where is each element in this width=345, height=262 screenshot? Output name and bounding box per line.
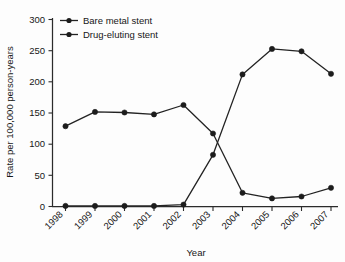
data-point [151, 112, 156, 117]
x-tick-label: 2000 [101, 209, 124, 232]
y-tick-label: 200 [29, 76, 45, 87]
legend-label-bare-metal-stent: Bare metal stent [83, 15, 153, 26]
x-tick-label: 2002 [160, 209, 183, 232]
data-point [63, 124, 68, 129]
legend-item-drug-eluting-stent: Drug-eluting stent [60, 29, 158, 40]
series-line-bare-metal-stent [66, 105, 332, 198]
data-point [151, 203, 156, 208]
y-axis-tick-labels: 0 50 100 150 200 250 300 [29, 14, 45, 212]
y-tick-label: 150 [29, 107, 45, 118]
data-point [328, 185, 333, 190]
y-tick-label: 0 [40, 201, 45, 212]
x-tick-label: 1998 [42, 209, 65, 232]
legend-marker-icon [66, 18, 71, 23]
x-tick-label: 2007 [308, 209, 331, 232]
data-point [299, 49, 304, 54]
y-axis-title: Rate per 100,000 person-years [4, 46, 15, 178]
data-point [122, 110, 127, 115]
series-line-drug-eluting-stent [66, 49, 332, 206]
data-point [299, 194, 304, 199]
x-tick-label: 2003 [190, 209, 213, 232]
line-chart: 0 50 100 150 200 250 300 Rate per 100,00… [0, 0, 345, 262]
x-tick-label: 1999 [72, 209, 95, 232]
data-point [92, 109, 97, 114]
x-tick-label: 2006 [278, 209, 301, 232]
y-tick-label: 100 [29, 138, 45, 149]
chart-legend: Bare metal stent Drug-eluting stent [60, 15, 158, 40]
data-point [181, 202, 186, 207]
data-point [240, 190, 245, 195]
x-axis-tick-labels: 1998 1999 2000 2001 2002 2003 2004 2005 … [42, 209, 330, 232]
data-point [181, 102, 186, 107]
data-point [92, 203, 97, 208]
data-point [63, 203, 68, 208]
data-point [122, 203, 127, 208]
x-tick-label: 2005 [249, 209, 272, 232]
y-tick-label: 50 [34, 170, 45, 181]
data-point [269, 196, 274, 201]
series-drug-eluting-stent [63, 46, 334, 208]
data-point [269, 46, 274, 51]
x-tick-label: 2001 [131, 209, 154, 232]
legend-item-bare-metal-stent: Bare metal stent [60, 15, 153, 26]
legend-label-drug-eluting-stent: Drug-eluting stent [83, 29, 158, 40]
legend-marker-icon [66, 32, 71, 37]
x-tick-label: 2004 [219, 209, 242, 232]
series-bare-metal-stent [63, 102, 334, 201]
data-point [210, 131, 215, 136]
data-point [240, 72, 245, 77]
y-tick-label: 250 [29, 45, 45, 56]
data-point [210, 152, 215, 157]
data-point [328, 71, 333, 76]
y-tick-label: 300 [29, 14, 45, 25]
x-axis-title: Year [186, 247, 205, 258]
chart-container: 0 50 100 150 200 250 300 Rate per 100,00… [0, 0, 345, 262]
